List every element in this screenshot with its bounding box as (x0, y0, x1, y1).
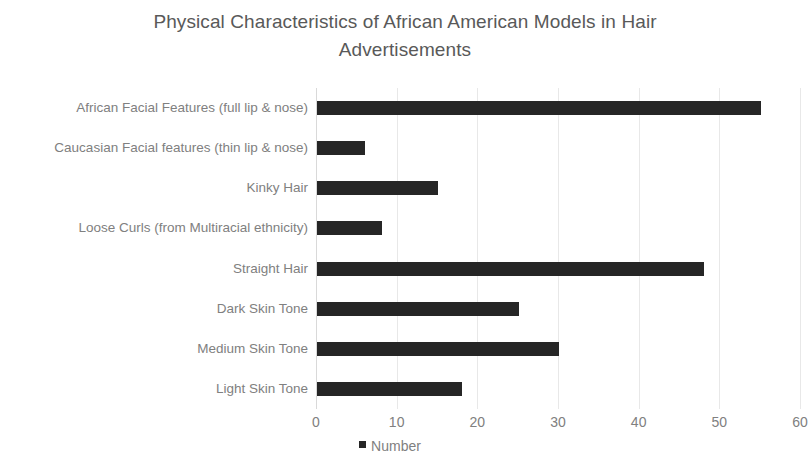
bar[interactable] (317, 262, 704, 276)
bar[interactable] (317, 302, 519, 316)
category-axis-labels: African Facial Features (full lip & nose… (0, 88, 308, 409)
bar[interactable] (317, 181, 438, 195)
gridline (719, 88, 720, 409)
chart-legend: Number (0, 436, 810, 454)
value-axis-line (316, 88, 317, 409)
gridline (800, 88, 801, 409)
category-label: Loose Curls (from Multiracial ethnicity) (0, 220, 308, 236)
bar[interactable] (317, 342, 559, 356)
gridline (558, 88, 559, 409)
gridline (477, 88, 478, 409)
bar[interactable] (317, 101, 761, 115)
category-label: Straight Hair (0, 261, 308, 277)
plot-area (316, 88, 800, 409)
chart-title: Physical Characteristics of African Amer… (105, 8, 705, 64)
x-tick-label: 20 (447, 412, 507, 432)
x-tick-label: 10 (367, 412, 427, 432)
chart-title-line-2: Advertisements (105, 36, 705, 64)
legend-marker-icon (359, 441, 366, 448)
chart-title-line-1: Physical Characteristics of African Amer… (105, 8, 705, 36)
gridline (639, 88, 640, 409)
category-label: Dark Skin Tone (0, 301, 308, 317)
bar[interactable] (317, 221, 382, 235)
category-label: Medium Skin Tone (0, 341, 308, 357)
legend-entry-number: Number (359, 436, 421, 454)
gridline (397, 88, 398, 409)
bar-chart: Physical Characteristics of African Amer… (0, 0, 810, 462)
x-tick-label: 0 (286, 412, 346, 432)
category-label: African Facial Features (full lip & nose… (0, 100, 308, 116)
category-label: Kinky Hair (0, 180, 308, 196)
category-label: Light Skin Tone (0, 381, 308, 397)
value-axis-tick-labels: 0102030405060 (0, 412, 810, 434)
category-label: Caucasian Facial features (thin lip & no… (0, 140, 308, 156)
x-tick-label: 60 (770, 412, 810, 432)
bar[interactable] (317, 141, 365, 155)
x-tick-label: 30 (528, 412, 588, 432)
bar[interactable] (317, 382, 462, 396)
x-tick-label: 40 (609, 412, 669, 432)
x-tick-label: 50 (689, 412, 749, 432)
legend-label: Number (371, 438, 421, 454)
